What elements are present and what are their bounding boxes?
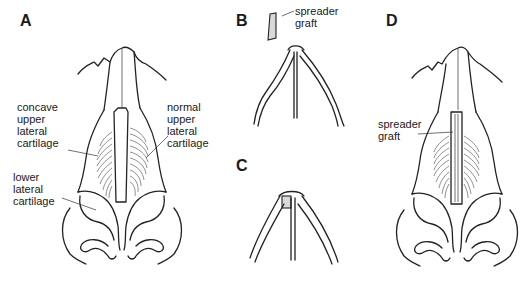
- nasal-bone-outline-d: [412, 47, 502, 82]
- nose-drawing-a: [62, 47, 182, 264]
- ulc-left-c: [250, 196, 280, 258]
- cartilage-hatch-right-d: [464, 136, 479, 198]
- cross-section-c: [250, 192, 338, 265]
- leader-line-graft-b: [282, 11, 294, 16]
- ulc-right-c: [302, 196, 338, 262]
- spreader-graft-d: [455, 114, 458, 202]
- cartilage-hatch-left-d: [434, 136, 449, 198]
- normal-cartilage-hatch: [130, 128, 148, 196]
- ala-left-d: [397, 210, 421, 266]
- nostril-right-d: [464, 242, 499, 261]
- leader-line-lower: [62, 198, 96, 210]
- ala-right-a: [158, 208, 182, 264]
- nose-drawing-d: [397, 47, 518, 266]
- septum-d: [451, 112, 462, 204]
- ala-right-d: [494, 210, 518, 266]
- leader-line-concave: [68, 150, 98, 156]
- ulc-left-b: [254, 50, 290, 124]
- septum-a: [114, 108, 128, 202]
- leader-line-graft-d: [418, 132, 453, 134]
- nostril-left-a: [81, 240, 116, 259]
- upper-lateral-outline-a: [78, 110, 104, 192]
- concave-cartilage-hatch: [97, 132, 112, 198]
- nostril-right-a: [128, 240, 163, 259]
- cross-section-b: [254, 11, 344, 126]
- nostril-left-d: [415, 242, 450, 261]
- ala-left-a: [63, 208, 87, 264]
- diagram-drawing: [0, 0, 526, 281]
- spreader-graft-b: [268, 13, 276, 40]
